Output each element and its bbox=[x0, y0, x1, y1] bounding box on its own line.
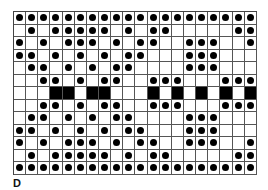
empty-cell bbox=[123, 37, 135, 50]
empty-cell bbox=[160, 87, 172, 100]
empty-cell bbox=[172, 50, 184, 63]
black-square-cell bbox=[63, 87, 75, 100]
black-square-cell bbox=[99, 87, 111, 100]
dot-cell bbox=[99, 150, 111, 163]
empty-cell bbox=[87, 100, 99, 113]
dot-cell bbox=[38, 75, 50, 88]
dot-cell bbox=[196, 12, 208, 25]
dot-cell bbox=[148, 12, 160, 25]
dot-cell bbox=[75, 37, 87, 50]
dot-cell bbox=[135, 12, 147, 25]
empty-cell bbox=[220, 137, 232, 150]
dot-cell bbox=[123, 12, 135, 25]
dot-cell bbox=[87, 150, 99, 163]
empty-cell bbox=[208, 25, 220, 38]
empty-cell bbox=[220, 112, 232, 125]
empty-cell bbox=[172, 37, 184, 50]
empty-cell bbox=[208, 87, 220, 100]
dot-cell bbox=[87, 12, 99, 25]
dot-cell bbox=[75, 75, 87, 88]
empty-cell bbox=[135, 112, 147, 125]
dot-cell bbox=[220, 100, 232, 113]
empty-cell bbox=[220, 25, 232, 38]
empty-cell bbox=[26, 87, 38, 100]
dot-cell bbox=[99, 25, 111, 38]
empty-cell bbox=[172, 62, 184, 75]
dot-cell bbox=[208, 12, 220, 25]
dot-cell bbox=[233, 75, 245, 88]
dot-cell bbox=[123, 62, 135, 75]
dot-cell bbox=[111, 37, 123, 50]
dot-cell bbox=[26, 162, 38, 175]
dot-cell bbox=[184, 62, 196, 75]
empty-cell bbox=[148, 125, 160, 138]
dot-cell bbox=[245, 100, 257, 113]
dot-cell bbox=[184, 112, 196, 125]
empty-cell bbox=[184, 150, 196, 163]
dot-cell bbox=[233, 162, 245, 175]
empty-cell bbox=[208, 150, 220, 163]
dot-cell bbox=[38, 162, 50, 175]
dot-cell bbox=[14, 12, 26, 25]
black-square-cell bbox=[50, 87, 62, 100]
dot-cell bbox=[50, 150, 62, 163]
dot-cell bbox=[245, 137, 257, 150]
empty-cell bbox=[99, 37, 111, 50]
empty-cell bbox=[172, 25, 184, 38]
dot-cell bbox=[87, 137, 99, 150]
dot-cell bbox=[148, 25, 160, 38]
dot-cell bbox=[75, 150, 87, 163]
empty-cell bbox=[184, 75, 196, 88]
empty-cell bbox=[50, 62, 62, 75]
dot-cell bbox=[26, 25, 38, 38]
empty-cell bbox=[220, 62, 232, 75]
dot-cell bbox=[184, 12, 196, 25]
empty-cell bbox=[184, 87, 196, 100]
dot-cell bbox=[75, 50, 87, 63]
empty-cell bbox=[63, 100, 75, 113]
dot-cell bbox=[38, 137, 50, 150]
dot-cell bbox=[233, 150, 245, 163]
empty-cell bbox=[14, 75, 26, 88]
black-square-cell bbox=[196, 87, 208, 100]
empty-cell bbox=[87, 125, 99, 138]
dot-cell bbox=[160, 100, 172, 113]
empty-cell bbox=[123, 87, 135, 100]
empty-cell bbox=[208, 75, 220, 88]
empty-cell bbox=[172, 150, 184, 163]
dot-cell bbox=[208, 125, 220, 138]
dot-cell bbox=[63, 162, 75, 175]
dot-cell bbox=[123, 112, 135, 125]
empty-cell bbox=[196, 100, 208, 113]
dot-cell bbox=[111, 62, 123, 75]
dot-cell bbox=[148, 150, 160, 163]
empty-cell bbox=[245, 50, 257, 63]
dot-cell bbox=[75, 100, 87, 113]
empty-cell bbox=[38, 150, 50, 163]
empty-cell bbox=[63, 125, 75, 138]
empty-cell bbox=[208, 100, 220, 113]
dot-cell bbox=[208, 162, 220, 175]
empty-cell bbox=[233, 137, 245, 150]
dot-cell bbox=[14, 162, 26, 175]
dot-cell bbox=[245, 162, 257, 175]
empty-cell bbox=[233, 62, 245, 75]
empty-cell bbox=[220, 50, 232, 63]
dot-cell bbox=[123, 125, 135, 138]
empty-cell bbox=[184, 25, 196, 38]
dot-cell bbox=[208, 50, 220, 63]
empty-cell bbox=[111, 50, 123, 63]
empty-cell bbox=[160, 112, 172, 125]
dot-cell bbox=[26, 150, 38, 163]
dot-cell bbox=[75, 12, 87, 25]
empty-cell bbox=[14, 112, 26, 125]
dot-cell bbox=[148, 137, 160, 150]
empty-cell bbox=[123, 137, 135, 150]
empty-cell bbox=[14, 150, 26, 163]
empty-cell bbox=[14, 100, 26, 113]
dot-cell bbox=[111, 12, 123, 25]
empty-cell bbox=[26, 37, 38, 50]
dot-cell bbox=[196, 125, 208, 138]
dot-cell bbox=[160, 75, 172, 88]
dot-cell bbox=[245, 75, 257, 88]
